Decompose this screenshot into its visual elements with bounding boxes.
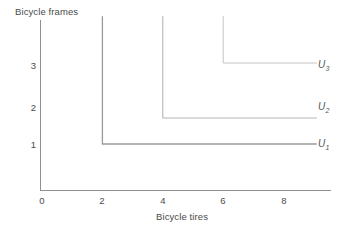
indifference-curve-chart: Bicycle frames Bicycle tires 1 2 3 0 2 4… <box>0 0 364 238</box>
y-tick-label-2: 2 <box>20 102 36 113</box>
curves <box>102 16 316 144</box>
curve-label-u3: U3 <box>318 59 329 70</box>
curve-label-u1-sub: 1 <box>326 144 330 151</box>
curve-label-u2-base: U <box>318 101 325 112</box>
x-tick-label-4: 4 <box>153 195 173 206</box>
y-tick-label-3: 3 <box>20 60 36 71</box>
curve-label-u3-sub: 3 <box>326 65 330 72</box>
curve-label-u1-base: U <box>318 138 325 149</box>
x-tick-label-2: 2 <box>92 195 112 206</box>
plot-canvas <box>0 0 364 238</box>
curve-label-u3-base: U <box>318 59 325 70</box>
x-tick-label-8: 8 <box>274 195 294 206</box>
y-tick-label-1: 1 <box>20 139 36 150</box>
x-tick-label-0: 0 <box>32 195 52 206</box>
curve-u3 <box>223 16 317 63</box>
curve-u1 <box>102 16 316 144</box>
curve-label-u2: U2 <box>318 101 329 112</box>
curve-u2 <box>163 16 317 118</box>
curve-label-u1: U1 <box>318 138 329 149</box>
curve-label-u2-sub: 2 <box>326 107 330 114</box>
x-tick-label-6: 6 <box>213 195 233 206</box>
axis-lines <box>40 20 331 191</box>
